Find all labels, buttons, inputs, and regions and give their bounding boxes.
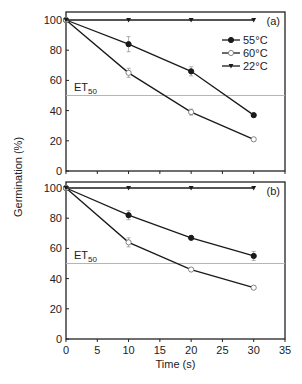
y-tick-label: 100 bbox=[44, 182, 62, 194]
data-point-marker bbox=[251, 113, 256, 118]
y-tick-label: 100 bbox=[44, 14, 62, 26]
y-tick-label: 20 bbox=[50, 303, 62, 315]
et50-label: ET50 bbox=[74, 249, 98, 264]
legend-marker-icon bbox=[228, 50, 233, 55]
series-line bbox=[66, 188, 254, 256]
data-point-marker bbox=[189, 267, 194, 272]
legend-item: 55°C bbox=[222, 34, 268, 46]
y-tick-label: 80 bbox=[50, 44, 62, 56]
panel-tag: (b) bbox=[267, 185, 280, 197]
data-point-marker bbox=[126, 42, 131, 47]
series-line bbox=[66, 20, 254, 115]
x-tick-label: 15 bbox=[154, 344, 166, 356]
data-point-marker bbox=[126, 240, 131, 245]
data-point-marker bbox=[189, 235, 194, 240]
x-tick-label: 25 bbox=[216, 344, 228, 356]
series-line bbox=[66, 20, 254, 139]
series-60c bbox=[63, 17, 256, 141]
x-axis-title: Time (s) bbox=[156, 358, 196, 370]
legend-label: 60°C bbox=[243, 47, 268, 59]
x-tick-label: 0 bbox=[63, 344, 69, 356]
x-tick-label: 35 bbox=[279, 344, 291, 356]
y-tick-label: 60 bbox=[50, 242, 62, 254]
legend: 55°C60°C22°C bbox=[222, 34, 268, 72]
legend-item: 22°C bbox=[222, 60, 268, 72]
x-tick-label: 10 bbox=[122, 344, 134, 356]
cropped-caption bbox=[0, 376, 302, 384]
panel-b: ET5002040608010005101520253035(b) bbox=[44, 182, 291, 356]
x-tick-label: 5 bbox=[94, 344, 100, 356]
y-tick-label: 0 bbox=[56, 333, 62, 345]
x-tick-label: 20 bbox=[185, 344, 197, 356]
data-point-marker bbox=[251, 253, 256, 258]
legend-item: 60°C bbox=[222, 47, 268, 59]
data-point-marker bbox=[251, 137, 256, 142]
y-tick-label: 60 bbox=[50, 74, 62, 86]
y-tick-label: 20 bbox=[50, 135, 62, 147]
y-tick-label: 0 bbox=[56, 165, 62, 177]
data-point-marker bbox=[251, 285, 256, 290]
germination-chart: ET50020406080100(a) ET500204060801000510… bbox=[0, 0, 302, 384]
data-point-marker bbox=[126, 213, 131, 218]
data-point-marker bbox=[189, 110, 194, 115]
series-55c bbox=[63, 17, 256, 117]
data-point-marker bbox=[126, 70, 131, 75]
legend-label: 55°C bbox=[243, 34, 268, 46]
series-55c bbox=[63, 185, 256, 260]
series-22c bbox=[64, 186, 257, 190]
et50-label: ET50 bbox=[74, 81, 98, 96]
legend-label: 22°C bbox=[243, 60, 268, 72]
panel-tag: (a) bbox=[267, 15, 280, 27]
y-axis-title: Germination (%) bbox=[12, 137, 24, 217]
x-tick-label: 30 bbox=[248, 344, 260, 356]
series-22c bbox=[64, 18, 257, 22]
legend-marker-icon bbox=[228, 37, 233, 42]
series-60c bbox=[63, 185, 256, 290]
y-tick-label: 40 bbox=[50, 105, 62, 117]
y-tick-label: 80 bbox=[50, 212, 62, 224]
series-line bbox=[66, 188, 254, 288]
data-point-marker bbox=[189, 69, 194, 74]
y-tick-label: 40 bbox=[50, 273, 62, 285]
